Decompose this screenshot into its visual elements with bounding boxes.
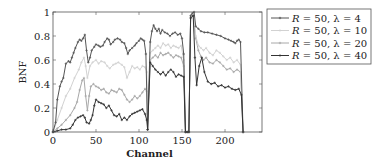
legend-label-part: = 50, xyxy=(300,50,334,61)
y-tick-label: 0.4 xyxy=(34,79,50,90)
data-point xyxy=(84,95,86,97)
legend-label-part: = 10 xyxy=(340,25,367,36)
series-layer xyxy=(52,11,244,133)
legend-label-part: = 20 xyxy=(340,38,367,49)
y-tick-label: 0.8 xyxy=(34,31,50,42)
data-point xyxy=(91,114,93,116)
data-point xyxy=(65,128,67,130)
data-point xyxy=(56,119,58,121)
data-point xyxy=(93,104,95,106)
x-tick-label: 0 xyxy=(50,135,56,146)
data-point xyxy=(86,77,88,79)
legend-label: R = 50, λ = 20 xyxy=(291,38,367,49)
legend: R = 50, λ = 4R = 50, λ = 10R = 50, λ = 2… xyxy=(267,9,371,64)
y-tick-label: 0 xyxy=(44,127,50,138)
x-axis-label: Channel xyxy=(126,148,173,159)
data-point xyxy=(151,30,153,32)
y-tick-label: 0.2 xyxy=(34,103,50,114)
y-tick-label: 1 xyxy=(44,7,50,18)
data-point xyxy=(194,56,196,58)
data-point xyxy=(145,53,147,55)
data-point xyxy=(234,89,236,91)
data-point xyxy=(72,52,74,54)
data-point xyxy=(146,128,148,130)
data-point xyxy=(207,31,209,33)
legend-label-part: = 50, xyxy=(300,25,334,36)
data-point xyxy=(87,61,89,63)
legend-label-part: = 50, xyxy=(300,38,334,49)
data-point xyxy=(198,65,200,67)
x-tick-label: 100 xyxy=(129,135,148,146)
data-point xyxy=(71,56,73,58)
data-point xyxy=(203,31,205,33)
data-point xyxy=(203,71,205,73)
series-line xyxy=(53,16,243,132)
data-point xyxy=(149,41,151,43)
data-point xyxy=(60,107,62,109)
data-point xyxy=(78,89,80,91)
x-tick-label: 200 xyxy=(215,135,234,146)
data-point xyxy=(195,84,197,86)
legend-label-part: = 50, xyxy=(300,13,334,24)
data-point xyxy=(84,65,86,67)
data-point xyxy=(181,37,183,39)
x-tick-label: 150 xyxy=(172,135,191,146)
data-point xyxy=(215,34,217,36)
series-4 xyxy=(52,14,244,133)
legend-label-part: = 4 xyxy=(340,13,361,24)
data-point xyxy=(89,56,91,58)
data-point xyxy=(59,85,61,87)
data-point xyxy=(125,47,127,49)
data-point xyxy=(60,128,62,130)
y-tick-label: 0.6 xyxy=(34,55,50,66)
data-point xyxy=(85,49,87,51)
legend-label: R = 50, λ = 10 xyxy=(291,25,367,36)
line-chart: 05010015020000.20.40.60.81 Channel BNF R… xyxy=(0,0,377,167)
data-point xyxy=(211,32,213,34)
data-point xyxy=(56,98,58,100)
legend-label-part: = 40 xyxy=(340,50,367,61)
data-point xyxy=(88,95,90,97)
x-tick-label: 50 xyxy=(90,135,103,146)
legend-label: R = 50, λ = 40 xyxy=(291,50,367,61)
data-point xyxy=(86,109,88,111)
legend-label: R = 50, λ = 4 xyxy=(291,13,361,24)
y-axis-label: BNF xyxy=(17,60,28,83)
